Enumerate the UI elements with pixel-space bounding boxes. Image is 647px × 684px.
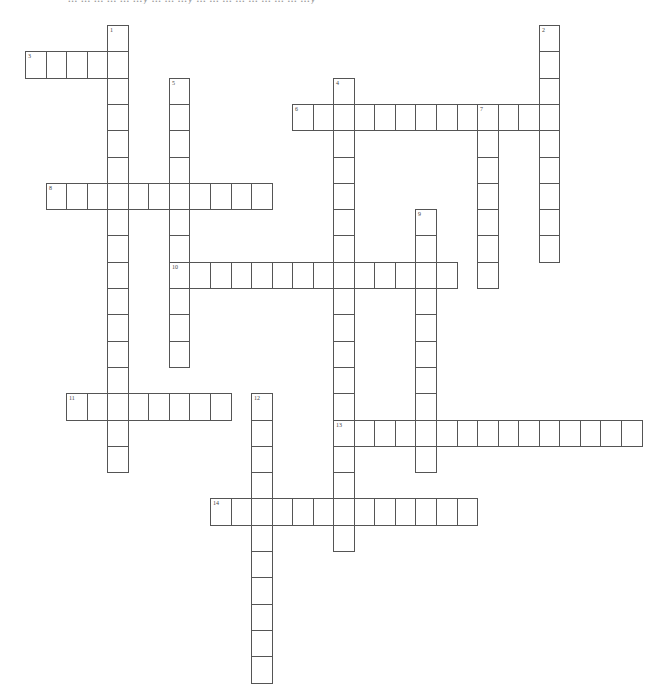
crossword-cell[interactable] [395, 262, 416, 289]
crossword-cell[interactable] [415, 235, 437, 263]
crossword-cell[interactable] [66, 51, 88, 79]
crossword-cell[interactable] [107, 209, 129, 236]
crossword-cell[interactable]: 7 [477, 104, 499, 131]
crossword-cell[interactable] [518, 420, 540, 447]
crossword-cell[interactable] [415, 498, 437, 526]
crossword-cell[interactable] [107, 130, 129, 158]
crossword-cell[interactable] [436, 104, 458, 131]
crossword-cell[interactable] [107, 446, 129, 473]
crossword-cell[interactable]: 11 [66, 393, 88, 421]
crossword-cell[interactable] [169, 209, 190, 236]
crossword-cell[interactable] [333, 446, 355, 473]
crossword-cell[interactable] [210, 393, 232, 421]
crossword-cell[interactable] [600, 420, 622, 447]
crossword-cell[interactable] [457, 498, 478, 526]
crossword-cell[interactable]: 4 [333, 78, 355, 105]
crossword-cell[interactable] [333, 314, 355, 342]
crossword-cell[interactable] [415, 104, 437, 131]
crossword-cell[interactable] [251, 577, 273, 605]
crossword-cell[interactable] [457, 420, 478, 447]
crossword-cell[interactable] [415, 393, 437, 421]
crossword-cell[interactable] [251, 604, 273, 631]
crossword-cell[interactable] [169, 183, 190, 210]
crossword-cell[interactable] [354, 420, 375, 447]
crossword-cell[interactable] [313, 104, 334, 131]
crossword-cell[interactable] [169, 157, 190, 184]
crossword-cell[interactable]: 10 [169, 262, 190, 289]
crossword-cell[interactable]: 9 [415, 209, 437, 236]
crossword-cell[interactable] [477, 262, 499, 289]
crossword-cell[interactable] [251, 420, 273, 447]
crossword-cell[interactable] [87, 51, 108, 79]
crossword-cell[interactable] [333, 525, 355, 552]
crossword-cell[interactable] [107, 262, 129, 289]
crossword-cell[interactable] [374, 420, 396, 447]
crossword-cell[interactable] [251, 183, 273, 210]
crossword-cell[interactable] [272, 498, 293, 526]
crossword-cell[interactable] [313, 262, 334, 289]
crossword-cell[interactable] [498, 420, 519, 447]
crossword-cell[interactable]: 3 [25, 51, 47, 79]
crossword-cell[interactable]: 14 [210, 498, 232, 526]
crossword-cell[interactable] [107, 104, 129, 131]
crossword-cell[interactable] [477, 183, 499, 210]
crossword-cell[interactable] [539, 104, 560, 131]
crossword-cell[interactable] [333, 235, 355, 263]
crossword-cell[interactable] [539, 183, 560, 210]
crossword-cell[interactable] [415, 446, 437, 473]
crossword-cell[interactable] [395, 420, 416, 447]
crossword-cell[interactable] [148, 393, 170, 421]
crossword-cell[interactable] [210, 183, 232, 210]
crossword-cell[interactable] [374, 104, 396, 131]
crossword-cell[interactable] [292, 498, 314, 526]
crossword-cell[interactable] [107, 393, 129, 421]
crossword-cell[interactable] [415, 314, 437, 342]
crossword-cell[interactable] [46, 51, 67, 79]
crossword-cell[interactable] [477, 235, 499, 263]
crossword-cell[interactable] [333, 130, 355, 158]
crossword-cell[interactable] [477, 209, 499, 236]
crossword-cell[interactable] [107, 288, 129, 315]
crossword-cell[interactable] [333, 498, 355, 526]
crossword-cell[interactable] [539, 209, 560, 236]
crossword-cell[interactable] [436, 498, 458, 526]
crossword-cell[interactable] [333, 288, 355, 315]
crossword-cell[interactable] [251, 498, 273, 526]
crossword-cell[interactable]: 12 [251, 393, 273, 421]
crossword-cell[interactable] [107, 51, 129, 79]
crossword-cell[interactable] [251, 630, 273, 657]
crossword-cell[interactable]: 8 [46, 183, 67, 210]
crossword-cell[interactable] [292, 262, 314, 289]
crossword-cell[interactable] [251, 446, 273, 473]
crossword-cell[interactable] [231, 498, 252, 526]
crossword-cell[interactable] [333, 367, 355, 394]
crossword-cell[interactable] [107, 314, 129, 342]
crossword-cell[interactable] [498, 104, 519, 131]
crossword-cell[interactable] [87, 393, 108, 421]
crossword-cell[interactable] [333, 104, 355, 131]
crossword-cell[interactable] [354, 262, 375, 289]
crossword-cell[interactable] [333, 393, 355, 421]
crossword-cell[interactable] [107, 78, 129, 105]
crossword-cell[interactable] [189, 183, 211, 210]
crossword-cell[interactable] [169, 341, 190, 368]
crossword-cell[interactable] [559, 420, 581, 447]
crossword-cell[interactable] [313, 498, 334, 526]
crossword-cell[interactable] [354, 498, 375, 526]
crossword-cell[interactable] [395, 104, 416, 131]
crossword-cell[interactable] [333, 341, 355, 368]
crossword-cell[interactable] [539, 157, 560, 184]
crossword-cell[interactable] [436, 420, 458, 447]
crossword-cell[interactable] [333, 472, 355, 499]
crossword-cell[interactable] [539, 420, 560, 447]
crossword-cell[interactable] [374, 498, 396, 526]
crossword-cell[interactable] [231, 183, 252, 210]
crossword-cell[interactable] [169, 130, 190, 158]
crossword-cell[interactable] [107, 183, 129, 210]
crossword-cell[interactable] [477, 420, 499, 447]
crossword-cell[interactable] [128, 393, 149, 421]
crossword-cell[interactable] [107, 341, 129, 368]
crossword-cell[interactable] [415, 262, 437, 289]
crossword-cell[interactable] [169, 104, 190, 131]
crossword-cell[interactable] [354, 104, 375, 131]
